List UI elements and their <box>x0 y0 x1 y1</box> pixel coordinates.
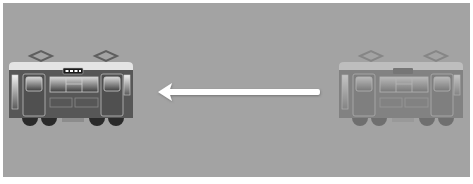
tram-solid: Tram (solid) <box>6 48 136 132</box>
arrow-left-icon <box>154 78 324 106</box>
tram-faded: Tram (faded) <box>336 48 466 132</box>
direction-arrow: Movement direction <box>154 78 324 106</box>
pantograph-icon <box>360 51 447 61</box>
tram-icon <box>6 48 136 132</box>
scene-description: Tram moving left illustration <box>3 3 4 4</box>
tram-icon <box>336 48 466 132</box>
pantograph-icon <box>30 51 117 61</box>
